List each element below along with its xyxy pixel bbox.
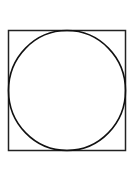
diagram-canvas: [0, 0, 140, 173]
inscribed-circle: [9, 31, 126, 151]
